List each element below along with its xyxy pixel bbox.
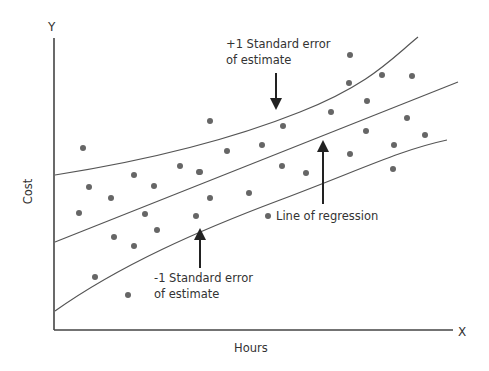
data-point (131, 243, 137, 249)
data-point (86, 184, 92, 190)
regression-line (55, 82, 458, 242)
data-point (346, 80, 352, 86)
data-point (328, 109, 334, 115)
data-point (92, 274, 98, 280)
data-point (177, 163, 183, 169)
lower-annotation-line2: of estimate (154, 287, 219, 302)
data-point (279, 163, 285, 169)
data-point (259, 142, 265, 148)
data-point (364, 98, 370, 104)
data-point (379, 72, 385, 78)
data-point (76, 210, 82, 216)
data-point (404, 115, 410, 121)
data-point (347, 52, 353, 58)
data-point (390, 166, 396, 172)
upper-annotation-line1: +1 Standard error (226, 37, 330, 52)
lower-annotation-line1: -1 Standard error (154, 271, 253, 286)
data-point (108, 195, 114, 201)
data-point (265, 213, 271, 219)
upper-annotation-line2: of estimate (226, 53, 291, 68)
arrow-up-icon (317, 140, 329, 204)
data-point (280, 123, 286, 129)
data-point (111, 234, 117, 240)
y-axis-end-label: Y (48, 20, 55, 35)
data-point (207, 195, 213, 201)
regression-annotation: Line of regression (276, 209, 378, 224)
data-point (422, 132, 428, 138)
data-point (391, 142, 397, 148)
data-point (246, 190, 252, 196)
data-point (80, 145, 86, 151)
data-point (197, 169, 203, 175)
data-point (347, 151, 353, 157)
data-point (142, 211, 148, 217)
y-axis-title: Cost (21, 174, 36, 210)
x-axis-end-label: X (458, 325, 466, 340)
data-point (363, 128, 369, 134)
data-point (125, 292, 131, 298)
data-point (154, 227, 160, 233)
data-point (409, 73, 415, 79)
data-points (76, 52, 428, 298)
x-axis-title: Hours (234, 341, 268, 356)
data-point (131, 172, 137, 178)
arrow-down-icon (270, 73, 282, 110)
data-point (151, 183, 157, 189)
data-point (207, 118, 213, 124)
data-point (193, 213, 199, 219)
data-point (224, 148, 230, 154)
data-point (303, 170, 309, 176)
